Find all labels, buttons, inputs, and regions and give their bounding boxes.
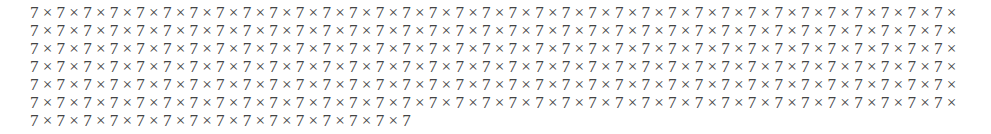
- text-line-4: 7 × 7 × 7 × 7 × 7 × 7 × 7 × 7 × 7 × 7 × …: [30, 58, 980, 76]
- text-line-2: 7 × 7 × 7 × 7 × 7 × 7 × 7 × 7 × 7 × 7 × …: [30, 22, 980, 40]
- multiplication-text-block: 7 × 7 × 7 × 7 × 7 × 7 × 7 × 7 × 7 × 7 × …: [30, 4, 980, 130]
- text-line-6: 7 × 7 × 7 × 7 × 7 × 7 × 7 × 7 × 7 × 7 × …: [30, 94, 980, 112]
- text-line-5: 7 × 7 × 7 × 7 × 7 × 7 × 7 × 7 × 7 × 7 × …: [30, 76, 980, 94]
- text-line-1: 7 × 7 × 7 × 7 × 7 × 7 × 7 × 7 × 7 × 7 × …: [30, 4, 980, 22]
- text-line-3: 7 × 7 × 7 × 7 × 7 × 7 × 7 × 7 × 7 × 7 × …: [30, 40, 980, 58]
- text-line-7: 7 × 7 × 7 × 7 × 7 × 7 × 7 × 7 × 7 × 7 × …: [30, 112, 980, 130]
